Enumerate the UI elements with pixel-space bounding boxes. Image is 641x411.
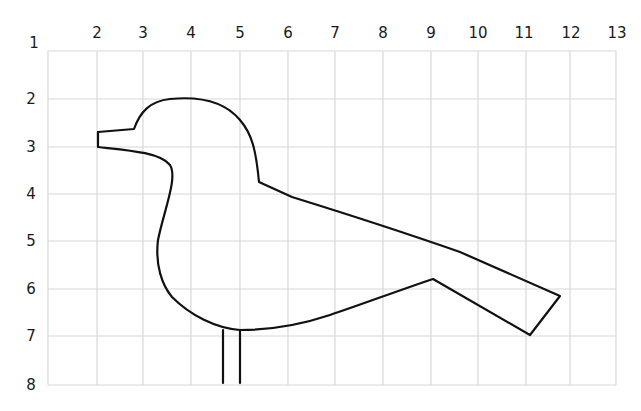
x-label: 4 (186, 26, 196, 41)
x-label: 6 (283, 26, 293, 41)
y-label: 8 (26, 378, 36, 393)
diagram-canvas: 1 2 3 4 5 6 7 8 9 10 11 12 13 2 3 4 5 6 … (0, 0, 641, 411)
y-label: 5 (26, 234, 36, 249)
x-label: 8 (378, 26, 388, 41)
x-label: 11 (514, 26, 533, 41)
grid-and-bird-svg (0, 0, 641, 411)
corner-label: 1 (29, 36, 39, 51)
x-label: 5 (235, 26, 245, 41)
x-label: 7 (330, 26, 340, 41)
x-label: 10 (468, 26, 487, 41)
bird-throat-and-breast (98, 132, 240, 330)
y-label: 6 (26, 282, 36, 297)
y-label: 3 (26, 140, 36, 155)
y-label: 7 (26, 329, 36, 344)
x-label: 9 (426, 26, 436, 41)
bird-head-and-back (98, 98, 560, 335)
x-label: 13 (607, 26, 626, 41)
x-label: 2 (92, 26, 102, 41)
y-label: 4 (26, 187, 36, 202)
x-label: 12 (561, 26, 580, 41)
y-label: 2 (26, 92, 36, 107)
x-label: 3 (138, 26, 148, 41)
